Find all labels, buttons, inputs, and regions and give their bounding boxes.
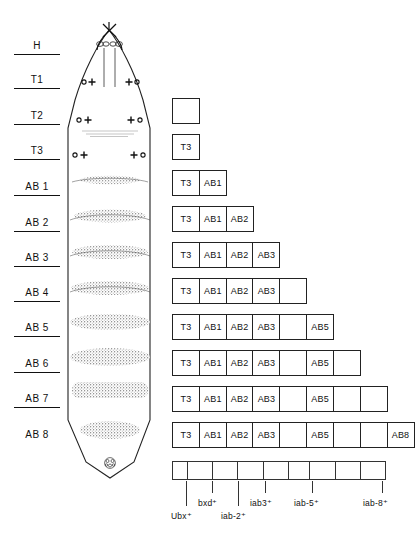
segment-cell-t3: T3 xyxy=(172,386,200,412)
segment-cell-t3: T3 xyxy=(172,206,200,232)
segment-cell-ab5: AB5 xyxy=(306,314,334,340)
segment-cell-ab2: AB2 xyxy=(226,278,254,304)
segment-cell-t3: T3 xyxy=(172,314,200,340)
gene-bar-cell xyxy=(335,461,361,480)
segment-cell-ab2: AB2 xyxy=(226,242,254,268)
segment-cell-ab3: AB3 xyxy=(252,422,280,448)
denticle-belts xyxy=(70,176,150,439)
gene-tick xyxy=(238,481,239,506)
segment-cell-ab5: AB5 xyxy=(306,350,334,376)
sensory-spots-row-t1 xyxy=(82,79,139,86)
segment-row-10: T3AB1AB2AB3AB5AB8 xyxy=(172,422,415,448)
sensory-spots-row-t3 xyxy=(73,152,145,159)
segment-row-9: T3AB1AB2AB3AB5 xyxy=(172,386,388,412)
gene-bar-cell xyxy=(212,461,238,480)
segment-rule xyxy=(14,301,60,302)
segment-rule xyxy=(14,407,60,408)
segment-cell-empty xyxy=(172,98,200,124)
segment-cell-empty xyxy=(333,350,361,376)
segment-cell-ab2: AB2 xyxy=(226,314,254,340)
gene-bar-cell xyxy=(263,461,289,480)
fine-hair-row xyxy=(82,131,138,137)
denticle-belt-ab7 xyxy=(80,421,140,439)
segment-rule xyxy=(14,88,60,89)
segment-cell-ab1: AB1 xyxy=(199,278,227,304)
segment-cell-empty xyxy=(279,278,307,304)
segment-row-8: T3AB1AB2AB3AB5 xyxy=(172,350,361,376)
segment-row-3: T3AB1 xyxy=(172,170,227,196)
segment-row-2: T3 xyxy=(172,134,200,160)
gene-tick xyxy=(212,481,213,493)
segment-cell-t3: T3 xyxy=(172,134,200,160)
gene-tick xyxy=(186,481,187,506)
gene-label-iab-2: iab-2⁺ xyxy=(221,511,246,521)
segment-label-h: H xyxy=(14,40,60,55)
segment-cell-ab3: AB3 xyxy=(252,314,280,340)
segment-cell-ab1: AB1 xyxy=(199,350,227,376)
segment-cell-ab2: AB2 xyxy=(226,386,254,412)
gene-tick xyxy=(382,481,383,493)
gene-bar-cell xyxy=(172,461,188,480)
segment-cell-empty xyxy=(333,422,361,448)
denticle-belt-ab2 xyxy=(70,245,150,259)
posterior-spiracle-icon xyxy=(105,458,116,469)
segment-cell-empty xyxy=(360,422,388,448)
gene-bar-cell xyxy=(309,461,336,480)
segment-rule xyxy=(14,372,60,373)
segment-label-ab8: AB 8 xyxy=(14,429,60,443)
segment-row-1 xyxy=(172,98,200,124)
gene-label-iab-5: iab-5⁺ xyxy=(294,498,319,508)
mouth-hooks-icon xyxy=(97,22,122,50)
segment-label-t2: T2 xyxy=(14,110,60,125)
segment-label-ab7: AB 7 xyxy=(14,393,60,408)
segment-cell-empty xyxy=(360,386,388,412)
segment-rule xyxy=(14,336,60,337)
gene-tick xyxy=(265,481,266,493)
segment-rule xyxy=(14,266,60,267)
denticle-belt-ab5 xyxy=(70,348,150,366)
segment-cell-ab3: AB3 xyxy=(252,386,280,412)
segment-cell-ab2: AB2 xyxy=(226,422,254,448)
segment-label-t3: T3 xyxy=(14,145,60,160)
segment-cell-empty xyxy=(279,314,307,340)
gene-label-bxd: bxd⁺ xyxy=(198,498,218,508)
segment-cell-ab5: AB5 xyxy=(306,422,334,448)
denticle-belt-ab4 xyxy=(70,314,150,330)
gene-label-iab-8: iab-8⁺ xyxy=(363,498,388,508)
segment-label-ab4: AB 4 xyxy=(14,287,60,302)
segment-label-ab2: AB 2 xyxy=(14,217,60,232)
segment-row-7: T3AB1AB2AB3AB5 xyxy=(172,314,334,340)
segment-cell-ab5: AB5 xyxy=(306,386,334,412)
segment-cell-ab1: AB1 xyxy=(199,242,227,268)
segment-cell-empty xyxy=(279,422,307,448)
denticle-belt-t3 xyxy=(72,176,148,184)
segment-cell-ab3: AB3 xyxy=(252,278,280,304)
segment-cell-ab1: AB1 xyxy=(199,206,227,232)
segment-cell-ab8: AB8 xyxy=(387,422,415,448)
gene-bar-cell xyxy=(360,461,386,480)
segment-rule xyxy=(14,195,60,196)
segment-cell-t3: T3 xyxy=(172,242,200,268)
segment-cell-ab2: AB2 xyxy=(226,350,254,376)
gene-bar-cell xyxy=(187,461,213,480)
denticle-belt-ab3 xyxy=(70,281,150,295)
segment-cell-empty xyxy=(279,350,307,376)
segment-cell-t3: T3 xyxy=(172,350,200,376)
sensory-spots-row-t2 xyxy=(77,117,142,124)
head-midline xyxy=(104,48,115,87)
segment-row-6: T3AB1AB2AB3 xyxy=(172,278,307,304)
segment-cell-t3: T3 xyxy=(172,422,200,448)
gene-bar-cell xyxy=(237,461,264,480)
segment-cell-empty xyxy=(279,386,307,412)
segment-cell-t3: T3 xyxy=(172,170,200,196)
segment-cell-ab1: AB1 xyxy=(199,170,227,196)
segment-rule xyxy=(14,159,60,160)
segment-cell-ab1: AB1 xyxy=(199,386,227,412)
segment-cell-ab3: AB3 xyxy=(252,242,280,268)
gene-tick xyxy=(312,481,313,493)
segment-label-ab6: AB 6 xyxy=(14,358,60,373)
bithorax-complex-bar xyxy=(172,461,386,480)
segment-label-ab3: AB 3 xyxy=(14,252,60,267)
